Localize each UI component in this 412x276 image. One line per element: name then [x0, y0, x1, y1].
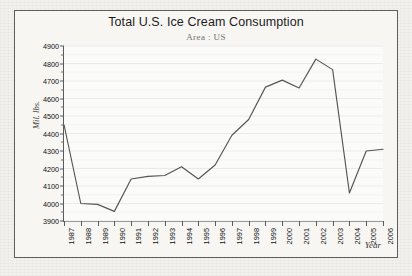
- x-axis-tick-label: 1993: [168, 228, 177, 244]
- y-axis-tick-label: 4600: [43, 94, 59, 103]
- x-axis-tick-mark: [81, 221, 82, 226]
- x-axis-tick-label: 1991: [134, 228, 143, 244]
- x-axis-tick-mark: [316, 221, 317, 226]
- chart-frame: Total U.S. Ice Cream Consumption Area : …: [14, 10, 398, 258]
- y-axis-tick-label: 3900: [43, 217, 59, 226]
- x-axis-tick-mark: [98, 221, 99, 226]
- x-axis-tick-label: 1997: [235, 228, 244, 244]
- x-axis-tick-label: 1999: [269, 228, 278, 244]
- x-axis-tick-mark: [198, 221, 199, 226]
- chart-subtitle: Area : US: [15, 32, 397, 42]
- x-axis-tick-label: 2001: [302, 228, 311, 244]
- x-axis-tick-mark: [64, 221, 65, 226]
- x-axis-tick-label: 1994: [185, 228, 194, 244]
- y-axis-label: Mil. lbs.: [31, 101, 41, 129]
- x-axis-tick-mark: [282, 221, 283, 226]
- x-axis-tick-label: 1989: [101, 228, 110, 244]
- x-axis-tick-label: 2002: [319, 228, 328, 244]
- x-axis-tick-mark: [148, 221, 149, 226]
- x-axis-tick-label: 2006: [386, 228, 395, 244]
- plot-area: 3900400041004200430044004500460047004800…: [63, 46, 383, 222]
- x-axis-tick-mark: [383, 221, 384, 226]
- x-axis-tick-mark: [333, 221, 334, 226]
- y-axis-tick-label: 4200: [43, 164, 59, 173]
- y-axis-tick-label: 4700: [43, 77, 59, 86]
- x-axis-tick-mark: [165, 221, 166, 226]
- y-axis-tick-label: 4900: [43, 42, 59, 51]
- x-axis-tick-label: 2004: [353, 228, 362, 244]
- x-axis-tick-label: 2000: [285, 228, 294, 244]
- x-axis-tick-mark: [366, 221, 367, 226]
- x-axis-tick-label: 1988: [84, 228, 93, 244]
- x-axis-tick-mark: [265, 221, 266, 226]
- x-axis-tick-label: 1998: [252, 228, 261, 244]
- x-axis-tick-mark: [215, 221, 216, 226]
- chart-title: Total U.S. Ice Cream Consumption: [15, 15, 397, 29]
- x-axis-tick-label: 1995: [202, 228, 211, 244]
- data-line-series-us: [64, 46, 383, 221]
- x-axis-tick-mark: [349, 221, 350, 226]
- x-axis-tick-mark: [131, 221, 132, 226]
- y-axis-tick-label: 4400: [43, 129, 59, 138]
- x-axis-tick-label: 2005: [369, 228, 378, 244]
- x-axis-tick-label: 1992: [151, 228, 160, 244]
- x-axis-tick-label: 1990: [118, 228, 127, 244]
- x-axis-tick-mark: [114, 221, 115, 226]
- x-axis-tick-mark: [232, 221, 233, 226]
- x-axis-tick-mark: [182, 221, 183, 226]
- x-axis-tick-mark: [249, 221, 250, 226]
- x-axis-tick-mark: [299, 221, 300, 226]
- x-axis-tick-label: 1996: [218, 228, 227, 244]
- y-axis-tick-label: 4500: [43, 112, 59, 121]
- x-axis-tick-label: 2003: [336, 228, 345, 244]
- y-axis-tick-label: 4000: [43, 199, 59, 208]
- x-axis-tick-label: 1987: [67, 228, 76, 244]
- y-axis-tick-label: 4800: [43, 59, 59, 68]
- y-axis-tick-label: 4100: [43, 182, 59, 191]
- y-axis-tick-label: 4300: [43, 147, 59, 156]
